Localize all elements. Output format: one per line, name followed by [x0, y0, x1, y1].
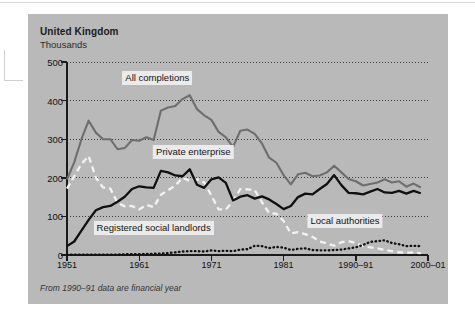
- series-annotation: All completions: [122, 71, 192, 85]
- chart-panel: United Kingdom Thousands 010020030040050…: [28, 14, 448, 304]
- x-tick-label: 1990–91: [338, 260, 373, 270]
- series-annotation: Local authorities: [307, 214, 382, 228]
- y-tick-label: 400: [47, 95, 63, 106]
- crop-corner-mark: [4, 50, 23, 81]
- y-tick-label: 500: [47, 57, 63, 68]
- chart-footnote: From 1990–91 data are financial year: [40, 283, 181, 293]
- y-tick-label: 100: [47, 211, 63, 222]
- series-local-authorities: [67, 156, 421, 253]
- x-axis-labels: 19511961197119811990–912000–01: [67, 260, 428, 274]
- y-tick-label: 200: [47, 172, 63, 183]
- y-axis-labels: 0100200300400500: [28, 62, 63, 255]
- series-all-completions: [67, 95, 421, 187]
- page-title: United Kingdom: [40, 26, 119, 37]
- chart-figure: United Kingdom Thousands 010020030040050…: [0, 0, 475, 316]
- plot-area: All completionsPrivate enterpriseRegiste…: [67, 62, 428, 255]
- units-label: Thousands: [40, 39, 87, 50]
- top-divider: [0, 2, 475, 3]
- y-tick-label: 300: [47, 134, 63, 145]
- x-tick-label: 1981: [274, 260, 294, 270]
- x-tick-label: 2000–01: [410, 260, 445, 270]
- x-tick-label: 1971: [201, 260, 221, 270]
- series-annotation: Registered social landlords: [94, 221, 214, 235]
- x-tick-label: 1961: [129, 260, 149, 270]
- series-annotation: Private enterprise: [153, 145, 233, 159]
- x-tick-label: 1951: [57, 260, 77, 270]
